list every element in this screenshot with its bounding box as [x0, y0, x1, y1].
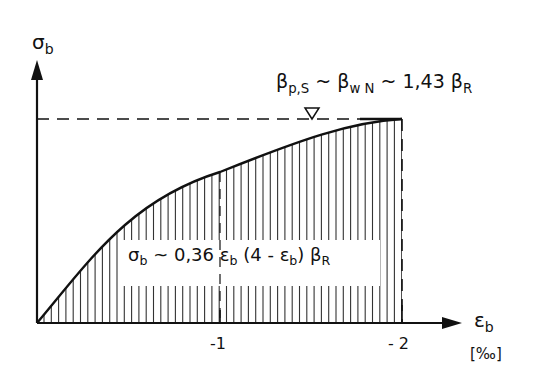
- y-axis-arrow-icon: [31, 60, 43, 80]
- tick-label-minus-2: - 2: [388, 334, 409, 353]
- stress-strain-diagram: [0, 0, 542, 382]
- x-axis-arrow-icon: [442, 317, 462, 329]
- peak-strength-label: βp,S ~ βw N ~ 1,43 βR: [276, 70, 472, 92]
- y-axis-label: σb: [32, 30, 54, 54]
- hatching: [44, 110, 402, 323]
- formula-label: σb ~ 0,36 εb (4 - εb) βR: [128, 244, 330, 265]
- peak-marker-icon: [305, 108, 319, 119]
- x-axis-label: εb: [474, 308, 494, 332]
- tick-label-minus-1: -1: [210, 334, 226, 353]
- x-axis-unit: [‰]: [470, 345, 502, 363]
